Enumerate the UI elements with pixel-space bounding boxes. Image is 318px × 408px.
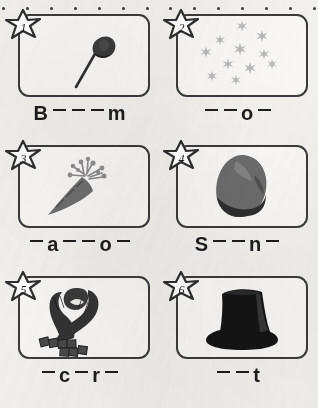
star-badge-number-2: 2 [179, 21, 185, 35]
blank [30, 240, 43, 242]
perforation-dot-rule [2, 4, 316, 12]
given-letter: n [249, 233, 262, 256]
blank [75, 371, 88, 373]
perforation-dot [265, 7, 268, 10]
given-letter: o [99, 233, 112, 256]
perforation-dot [313, 7, 316, 10]
perforation-dot [146, 7, 149, 10]
given-letter: a [47, 233, 59, 256]
perforation-dot [74, 7, 77, 10]
blank [232, 240, 245, 242]
star-badge-number-4: 4 [179, 152, 185, 166]
blank [42, 371, 55, 373]
star-badge-number-5: 5 [21, 283, 27, 297]
star-badge-number-3: 3 [20, 152, 27, 166]
answer-line-3[interactable]: ao [4, 231, 156, 257]
given-letter: o [241, 102, 254, 125]
blank [258, 109, 271, 111]
star-badge-3: 3 [4, 139, 42, 175]
perforation-dot [241, 7, 244, 10]
blank [63, 240, 76, 242]
answer-line-1[interactable]: Bm [4, 100, 156, 126]
star-badge-6: 6 [162, 270, 200, 306]
star-badge-5: 5 [4, 270, 42, 306]
worksheet-sheet: 1 Bm 2 [0, 14, 318, 408]
star-badge-number-6: 6 [179, 283, 185, 297]
blank [213, 240, 226, 242]
given-letter: t [253, 364, 261, 387]
given-letter: r [92, 364, 101, 387]
blank [53, 109, 66, 111]
answer-line-5[interactable]: cr [4, 362, 156, 388]
answer-line-2[interactable]: o [162, 100, 314, 126]
given-letter: c [59, 364, 71, 387]
perforation-dot [217, 7, 220, 10]
blank [82, 240, 95, 242]
given-letter: B [33, 102, 48, 125]
blank [236, 371, 249, 373]
given-letter: m [108, 102, 127, 125]
given-letter: S [195, 233, 209, 256]
perforation-dot [98, 7, 101, 10]
perforation-dot [50, 7, 53, 10]
blank [105, 371, 118, 373]
blank [205, 109, 218, 111]
star-badge-number-1: 1 [21, 21, 27, 35]
blank [91, 109, 104, 111]
star-badge-2: 2 [162, 8, 200, 44]
blank [117, 240, 130, 242]
answer-line-4[interactable]: Sn [162, 231, 314, 257]
blank [72, 109, 85, 111]
perforation-dot [289, 7, 292, 10]
answer-line-6[interactable]: t [162, 362, 314, 388]
blank [266, 240, 279, 242]
blank [224, 109, 237, 111]
blank [217, 371, 230, 373]
star-badge-1: 1 [4, 8, 42, 44]
star-badge-4: 4 [162, 139, 200, 175]
perforation-dot [122, 7, 125, 10]
